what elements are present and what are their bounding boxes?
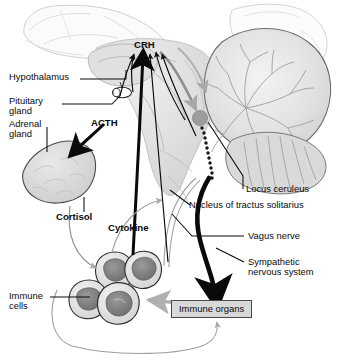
label-nucleus-tractus-solitarius: Nucleus of tractus solitarius <box>189 200 304 210</box>
leader-nts <box>170 190 190 205</box>
immune-cell-cluster <box>69 251 162 324</box>
adrenal-gland-structure <box>23 141 96 203</box>
label-cortisol: Cortisol <box>56 212 92 222</box>
label-pituitary-gland-line2: gland <box>9 106 32 116</box>
leader-sympathetic <box>216 248 244 262</box>
neuroimmune-hpa-axis-diagram: CRH Hypothalamus Pituitary gland Adrenal… <box>0 0 337 363</box>
label-crh: CRH <box>134 40 155 50</box>
label-hypothalamus: Hypothalamus <box>9 72 69 82</box>
label-sympathetic-line2: nervous system <box>248 267 314 277</box>
label-adrenal-gland-line2: gland <box>9 129 32 139</box>
locus-ceruleus-structure <box>192 110 207 125</box>
label-locus-ceruleus: Locus ceruleus <box>246 184 309 194</box>
leader-vagus <box>172 214 244 236</box>
label-vagus-nerve: Vagus nerve <box>248 231 300 241</box>
diagram-canvas <box>0 0 337 363</box>
label-immune-organs-box: Immune organs <box>171 300 252 318</box>
label-acth: ACTH <box>91 118 118 128</box>
label-cytokine: Cytokine <box>108 223 149 233</box>
label-immune-cells-line2: cells <box>9 301 28 311</box>
sympathetic-arrow <box>197 178 216 298</box>
cerebellum-structure <box>200 29 331 194</box>
leader-pituitary <box>62 96 120 104</box>
